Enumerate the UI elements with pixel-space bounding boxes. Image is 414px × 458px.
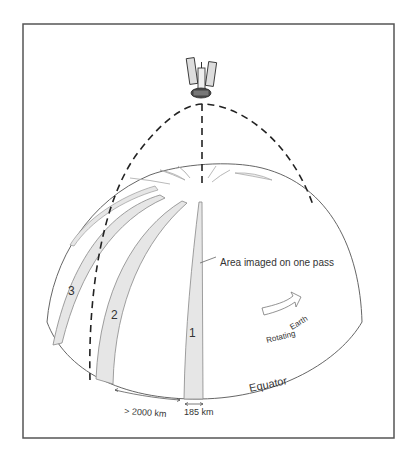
swath-width-label: 185 km: [184, 407, 214, 417]
satellite-swath-diagram: Area imaged on one pass 1 2 3 Rotating E…: [0, 0, 414, 458]
stripe-3-label: 3: [68, 284, 75, 298]
stripe-2-label: 2: [111, 308, 118, 322]
callout-label: Area imaged on one pass: [220, 257, 334, 268]
stripe-1-label: 1: [189, 326, 196, 340]
